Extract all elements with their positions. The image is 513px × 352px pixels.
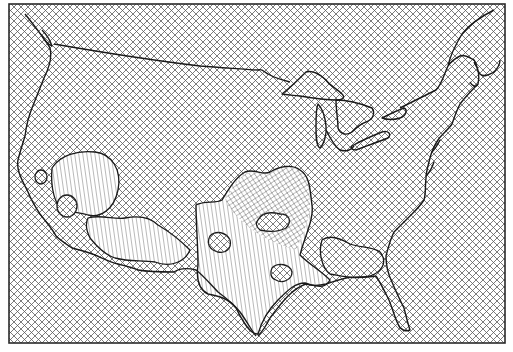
- hatched-us-map-figure: [0, 0, 513, 352]
- map-canvas: [0, 0, 513, 352]
